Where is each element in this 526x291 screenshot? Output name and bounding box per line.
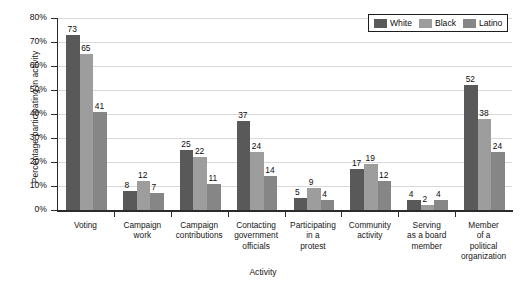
bar-group: 252211 (180, 18, 221, 210)
y-tick-label: 20% (0, 156, 47, 166)
bar-group: 736541 (66, 18, 107, 210)
bar-value-label: 24 (252, 141, 261, 151)
legend-label: Latino (479, 18, 502, 28)
bar-latino[interactable] (491, 152, 505, 210)
bar-value-label: 52 (466, 74, 475, 84)
legend: WhiteBlackLatino (368, 14, 508, 32)
bar-latino[interactable] (434, 200, 448, 210)
bar-white[interactable] (464, 85, 478, 210)
bar-group: 372414 (237, 18, 278, 210)
bar-black[interactable] (250, 152, 264, 210)
bar-latino[interactable] (93, 112, 107, 210)
y-tick-label: 50% (0, 84, 47, 94)
x-tick-mark (114, 211, 115, 217)
y-tick-label: 80% (0, 12, 47, 22)
bar-value-label: 22 (195, 146, 204, 156)
bar-white[interactable] (123, 191, 137, 210)
x-category-label: Memberof apoliticalorganization (449, 220, 518, 261)
bar-white[interactable] (237, 121, 251, 210)
y-tick-label: 30% (0, 132, 47, 142)
bar-latino[interactable] (264, 176, 278, 210)
bar-value-label: 9 (309, 177, 314, 187)
bar-value-label: 17 (352, 158, 361, 168)
bar-value-label: 4 (322, 189, 327, 199)
bar-value-label: 14 (265, 165, 274, 175)
x-tick-mark (171, 211, 172, 217)
bar-black[interactable] (478, 119, 492, 210)
bar-value-label: 65 (81, 43, 90, 53)
bar-group: 171912 (350, 18, 391, 210)
bar-value-label: 4 (409, 189, 414, 199)
bar-value-label: 24 (493, 141, 502, 151)
bar-value-label: 11 (208, 173, 217, 183)
x-tick-mark (341, 211, 342, 217)
bar-latino[interactable] (321, 200, 335, 210)
bar-black[interactable] (193, 157, 207, 210)
x-tick-mark (455, 211, 456, 217)
legend-label: White (390, 18, 412, 28)
bar-group: 523824 (464, 18, 505, 210)
bar-latino[interactable] (207, 184, 221, 210)
bar-value-label: 12 (379, 170, 388, 180)
bar-latino[interactable] (378, 181, 392, 210)
bar-black[interactable] (364, 164, 378, 210)
legend-label: Black (435, 18, 456, 28)
bar-black[interactable] (80, 54, 94, 210)
bar-white[interactable] (180, 150, 194, 210)
x-tick-mark (228, 211, 229, 217)
y-axis-line (57, 18, 58, 211)
plot-area: 7365418127252211372414594171912424523824 (57, 18, 512, 210)
bar-value-label: 7 (152, 182, 157, 192)
x-axis-title: Activity (0, 267, 526, 277)
legend-swatch-icon (419, 19, 432, 28)
legend-item-latino[interactable]: Latino (463, 18, 502, 28)
bar-chart: Percentage participating in activity 0%1… (0, 0, 526, 291)
bar-value-label: 8 (124, 180, 129, 190)
legend-item-white[interactable]: White (374, 18, 412, 28)
bar-white[interactable] (350, 169, 364, 210)
bar-value-label: 4 (436, 189, 441, 199)
bar-value-label: 2 (422, 194, 427, 204)
y-tick-label: 60% (0, 60, 47, 70)
bar-value-label: 12 (138, 170, 147, 180)
bar-black[interactable] (307, 188, 321, 210)
bar-value-label: 38 (479, 108, 488, 118)
legend-item-black[interactable]: Black (419, 18, 456, 28)
bar-white[interactable] (294, 198, 308, 210)
y-tick-label: 0% (0, 204, 47, 214)
x-tick-mark (398, 211, 399, 217)
bar-white[interactable] (407, 200, 421, 210)
bar-value-label: 5 (295, 187, 300, 197)
bar-group: 424 (407, 18, 448, 210)
bar-value-label: 37 (238, 110, 247, 120)
y-tick-label: 70% (0, 36, 47, 46)
bar-latino[interactable] (150, 193, 164, 210)
bar-group: 594 (294, 18, 335, 210)
y-tick-label: 10% (0, 180, 47, 190)
bar-black[interactable] (137, 181, 151, 210)
bar-white[interactable] (66, 35, 80, 210)
legend-swatch-icon (463, 19, 476, 28)
bar-value-label: 25 (181, 139, 190, 149)
y-tick-label: 40% (0, 108, 47, 118)
bar-value-label: 73 (68, 24, 77, 34)
bar-value-label: 41 (95, 101, 104, 111)
bar-value-label: 19 (366, 153, 375, 163)
legend-swatch-icon (374, 19, 387, 28)
x-tick-mark (285, 211, 286, 217)
bar-group: 8127 (123, 18, 164, 210)
